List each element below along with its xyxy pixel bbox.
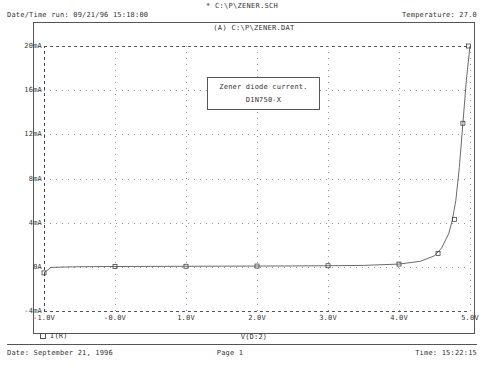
schematic-title: * C:\P\ZENER.SCH: [0, 2, 484, 10]
x-axis-tick-labels: -1.0V-0.0V1.0V2.0V3.0V4.0V5.0V: [44, 314, 470, 326]
annotation-box: Zener diode current. D1N750-X: [207, 77, 320, 110]
y-tick-label: 20mA: [24, 42, 42, 50]
x-axis-title: V(D:2): [33, 333, 475, 341]
x-tick-label: 5.0V: [461, 314, 479, 322]
probe-page: * C:\P\ZENER.SCH Date/Time run: 09/21/96…: [0, 0, 484, 368]
x-tick-label: -0.0V: [104, 314, 126, 322]
x-tick-label: 4.0V: [390, 314, 408, 322]
x-tick-label: 1.0V: [177, 314, 195, 322]
footer-page: Page 1: [217, 349, 244, 357]
annotation-line-1: Zener diode current.: [219, 83, 307, 91]
y-tick-label: 0A: [33, 263, 42, 271]
x-tick-label: -1.0V: [33, 314, 55, 322]
footer-time: Time: 15:22:15: [415, 349, 477, 357]
temperature-label: Temperature: 27.0: [402, 11, 477, 19]
gridline-y: [44, 311, 470, 312]
footer-divider: [7, 344, 477, 345]
footer-date: Date: September 21, 1996: [7, 349, 113, 357]
y-tick-label: 4mA: [29, 219, 42, 227]
plot-title: (A) C:\P\ZENER.DAT: [33, 24, 475, 32]
y-tick-label: 8mA: [29, 175, 42, 183]
y-axis-tick-labels: -4mA0A4mA8mA12mA16mA20mA: [0, 46, 42, 311]
y-tick-label: 12mA: [24, 130, 42, 138]
y-tick-label: 16mA: [24, 86, 42, 94]
annotation-line-2: D1N750-X: [246, 96, 281, 104]
x-tick-label: 3.0V: [319, 314, 337, 322]
x-tick-label: 2.0V: [248, 314, 266, 322]
datetime-run-label: Date/Time run: 09/21/96 15:18:00: [7, 11, 148, 19]
gridline-x: [470, 46, 471, 311]
